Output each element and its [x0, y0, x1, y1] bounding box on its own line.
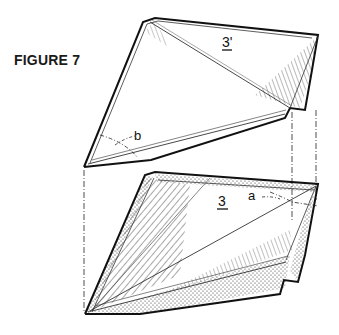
label-a: a — [248, 188, 256, 203]
label-3: 3 — [218, 193, 226, 209]
figure-drawing: 3' 3 b a — [0, 0, 339, 335]
piece-label-top: 3' — [222, 34, 232, 50]
label-b: b — [134, 128, 141, 143]
label-3-prime: 3' — [222, 34, 232, 50]
top-piece — [84, 18, 318, 167]
piece-label-bottom: 3 — [217, 193, 228, 209]
bottom-piece — [85, 172, 318, 315]
